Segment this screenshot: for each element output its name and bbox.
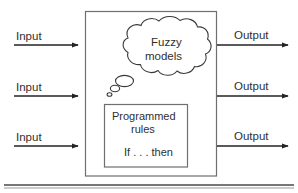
diagram-canvas: Fuzzy models Programmed rules If . . . t…: [0, 0, 298, 193]
output-label-3: Output: [234, 130, 269, 142]
fuzzy-models-cloud: Fuzzy models: [107, 16, 211, 96]
output-label-2: Output: [234, 80, 269, 92]
fuzzy-system-diagram: Fuzzy models Programmed rules If . . . t…: [0, 0, 298, 193]
programmed-rules-box: Programmed rules If . . . then: [105, 105, 188, 168]
input-arrow-2: Input: [14, 81, 78, 96]
rules-line-3: If . . . then: [124, 146, 173, 158]
cloud-line-2: models: [145, 50, 182, 62]
output-label-1: Output: [234, 29, 269, 41]
input-arrow-1: Input: [14, 30, 78, 45]
input-label-1: Input: [16, 30, 42, 42]
input-label-3: Input: [16, 131, 42, 143]
output-arrow-1: Output: [217, 29, 288, 45]
output-arrow-2: Output: [217, 80, 288, 96]
cloud-line-1: Fuzzy: [151, 36, 182, 48]
cloud-tail-bubble-small: [107, 93, 112, 97]
input-label-2: Input: [16, 81, 42, 93]
input-arrow-3: Input: [14, 131, 78, 146]
output-arrow-3: Output: [217, 130, 288, 146]
rules-line-1: Programmed: [112, 110, 176, 122]
rules-line-2: rules: [131, 123, 155, 135]
cloud-tail-bubble-medium: [110, 85, 119, 91]
cloud-tail-bubble-large: [116, 75, 134, 86]
